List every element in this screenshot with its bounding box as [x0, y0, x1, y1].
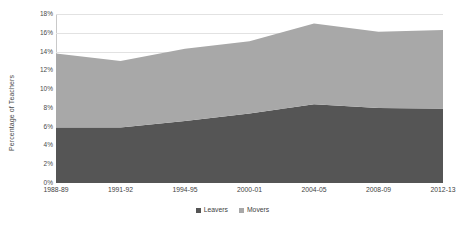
- y-axis-tick-label: 6%: [5, 123, 53, 131]
- stacked-area-chart: Percentage of Teachers 0%2%4%6%8%10%12%1…: [0, 0, 465, 226]
- x-axis-tick-label: 2012-13: [431, 185, 456, 195]
- y-axis-tick-label: 16%: [5, 29, 53, 37]
- legend-swatch-icon: [196, 208, 201, 213]
- chart-legend: LeaversMovers: [0, 206, 465, 214]
- y-axis-tick-label: 4%: [5, 141, 53, 149]
- x-axis-tick-label: 2004-05: [302, 185, 327, 195]
- y-axis-tick-label: 14%: [5, 48, 53, 56]
- legend-item[interactable]: Movers: [239, 206, 269, 214]
- legend-swatch-icon: [239, 208, 244, 213]
- y-axis-tick-label: 2%: [5, 160, 53, 168]
- y-axis-tick-label: 12%: [5, 66, 53, 74]
- y-axis-tick-labels: 0%2%4%6%8%10%12%14%16%18%: [0, 14, 53, 183]
- x-axis-tick-labels: 1988-891991-921994-952000-012004-052008-…: [56, 185, 443, 197]
- plot-area: [56, 14, 443, 183]
- y-axis-tick-label: 10%: [5, 85, 53, 93]
- y-axis-tick-label: 18%: [5, 10, 53, 18]
- x-axis-tick-label: 2008-09: [366, 185, 391, 195]
- x-axis-tick-label: 1994-95: [173, 185, 198, 195]
- legend-label: Leavers: [204, 206, 228, 214]
- legend-label: Movers: [247, 206, 269, 214]
- x-axis-tick-label: 1991-92: [108, 185, 133, 195]
- x-axis-tick-label: 2000-01: [237, 185, 262, 195]
- y-axis-tick-label: 8%: [5, 104, 53, 112]
- x-axis-tick-label: 1988-89: [44, 185, 69, 195]
- area-series-svg: [56, 14, 443, 183]
- legend-item[interactable]: Leavers: [196, 206, 228, 214]
